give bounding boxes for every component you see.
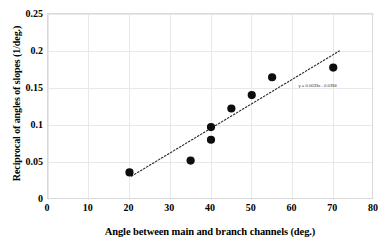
- x-tick-label: 70: [312, 203, 352, 213]
- x-tick-label: 80: [353, 203, 387, 213]
- x-tick-label: 30: [149, 203, 189, 213]
- x-tick-label: 10: [68, 203, 108, 213]
- x-tick-label: 0: [27, 203, 67, 213]
- x-tick-label: 40: [190, 203, 230, 213]
- x-tick-label: 50: [231, 203, 271, 213]
- x-tick-label: 20: [109, 203, 149, 213]
- x-axis-title: Angle between main and branch channels (…: [47, 226, 373, 237]
- x-tick-label: 60: [272, 203, 312, 213]
- x-axis-tick-labels: 0 10 20 30 40 50 60 70 80: [0, 0, 387, 245]
- scatter-chart: Reciprocal of angles of slopes (1/deg.) …: [0, 0, 387, 245]
